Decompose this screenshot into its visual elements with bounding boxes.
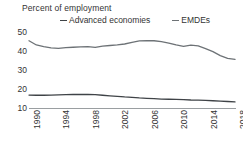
series-lines [29,28,235,108]
x-axis-line [29,108,236,109]
legend-line-swatch-icon [172,20,179,21]
legend-label-advanced-economies: Advanced economies [69,15,150,25]
legend-line-swatch-icon [60,20,67,21]
x-axis-tick-label: 2010 [180,110,189,129]
chart-axis-title: Percent of employment [22,3,112,13]
series-line-advanced-economies [29,94,235,101]
y-axis-tick-label: 20 [9,85,27,94]
x-axis-tick-label: 2006 [151,110,160,129]
plot-area [29,28,235,108]
legend-label-emdes: EMDEs [181,15,210,25]
chart-legend: Advanced economies EMDEs [60,15,238,25]
y-axis: 5040302010 [5,28,27,108]
x-axis-tick-label: 2002 [121,110,130,129]
x-axis: 19901994199820022006201020142018 [29,110,236,144]
chart-container: Percent of employment Advanced economies… [0,0,243,146]
x-axis-tick-label: 1998 [92,110,101,129]
x-axis-tick-label: 1994 [62,110,71,129]
y-axis-tick-label: 50 [9,28,27,37]
legend-item-advanced-economies: Advanced economies [60,15,150,25]
x-axis-tick-label: 2018 [239,110,243,129]
x-axis-tick-label: 2014 [210,110,219,129]
y-axis-tick-label: 30 [9,66,27,75]
y-axis-tick-label: 10 [9,104,27,113]
legend-item-emdes: EMDEs [172,15,210,25]
x-axis-tick-label: 1990 [33,110,42,129]
series-line-emdes [29,41,235,60]
y-axis-tick-label: 40 [9,47,27,56]
